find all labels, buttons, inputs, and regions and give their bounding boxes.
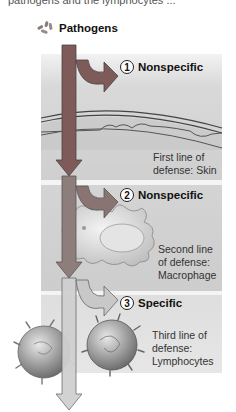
defense-2-type: Nonspecific [138, 189, 203, 201]
step-number-1: 1 [120, 60, 134, 74]
desc-line: defense: Skin [153, 164, 217, 177]
defense-2-heading: 2 Nonspecific [120, 188, 203, 202]
desc-line: Third line of [152, 329, 213, 342]
deflect-arrow-3 [76, 280, 118, 316]
desc-line: of defense: [158, 256, 216, 269]
step-number-3: 3 [120, 296, 134, 310]
defense-3-type: Specific [138, 297, 182, 309]
desc-line: Second line [158, 243, 216, 256]
defense-3-heading: 3 Specific [120, 296, 182, 310]
deflect-arrow-1 [76, 60, 118, 92]
step-number-2: 2 [120, 188, 134, 202]
defense-2-description: Second line of defense: Macrophage [158, 243, 216, 282]
desc-line: Lymphocytes [152, 355, 213, 368]
desc-line: Macrophage [158, 269, 216, 282]
desc-line: First line of [153, 151, 217, 164]
defense-1-description: First line of defense: Skin [153, 151, 217, 177]
lymphocyte-illustration [14, 314, 144, 384]
desc-line: defense: [152, 342, 213, 355]
defense-1-type: Nonspecific [138, 61, 203, 73]
defense-3-description: Third line of defense: Lymphocytes [152, 329, 213, 368]
defense-1-heading: 1 Nonspecific [120, 60, 203, 74]
